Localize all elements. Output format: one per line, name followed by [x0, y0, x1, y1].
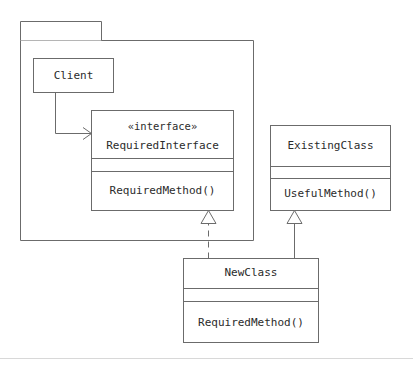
- hollow-triangle-icon: [287, 211, 302, 224]
- class-existing-class[interactable]: ExistingClass UsefulMethod(): [271, 126, 391, 211]
- client-name: Client: [54, 69, 94, 82]
- required-interface-stereotype: «interface»: [128, 120, 198, 132]
- existing-class-operations: UsefulMethod(): [284, 187, 377, 200]
- existing-class-name: ExistingClass: [287, 139, 373, 152]
- new-class-name: NewClass: [225, 266, 278, 279]
- uml-class-diagram: Client «interface» RequiredInterface Req…: [0, 0, 413, 365]
- class-client[interactable]: Client: [34, 59, 114, 93]
- required-interface-name: RequiredInterface: [106, 139, 219, 152]
- class-new-class[interactable]: NewClass RequiredMethod(): [184, 259, 319, 343]
- relationship-newclass-extends-existingclass[interactable]: [287, 211, 302, 259]
- class-required-interface[interactable]: «interface» RequiredInterface RequiredMe…: [92, 111, 234, 211]
- diagram-canvas: Client «interface» RequiredInterface Req…: [0, 0, 413, 365]
- package-tab: [21, 22, 102, 41]
- required-interface-operations: RequiredMethod(): [110, 184, 216, 197]
- new-class-operations: RequiredMethod(): [198, 316, 304, 329]
